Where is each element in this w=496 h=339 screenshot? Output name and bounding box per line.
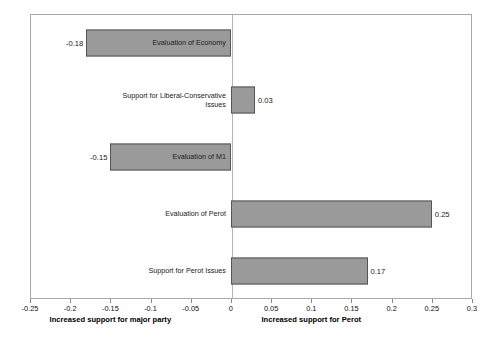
bar-category-label: Evaluation of M1 bbox=[172, 152, 226, 162]
x-tick-label: 0.25 bbox=[425, 304, 439, 313]
bar-value-label: -0.15 bbox=[90, 152, 107, 161]
x-tick-mark bbox=[392, 299, 393, 303]
bar-value-label: 0.03 bbox=[258, 95, 273, 104]
x-tick-mark bbox=[432, 299, 433, 303]
x-tick-mark bbox=[191, 299, 192, 303]
x-tick-mark bbox=[271, 299, 272, 303]
bar-category-label: Evaluation of Perot bbox=[165, 209, 226, 219]
bar-row: Support for Liberal-Conservative Issues0… bbox=[30, 71, 472, 128]
bar-row: Evaluation of Perot0.25 bbox=[30, 185, 472, 242]
x-tick-mark bbox=[311, 299, 312, 303]
axis-caption: Increased support for major party bbox=[50, 315, 172, 324]
bar[interactable] bbox=[231, 86, 255, 113]
x-tick-mark bbox=[351, 299, 352, 303]
x-tick-mark bbox=[30, 299, 31, 303]
bar-value-label: 0.17 bbox=[371, 266, 386, 275]
bar-value-label: -0.18 bbox=[66, 38, 83, 47]
x-tick-label: -0.05 bbox=[182, 304, 199, 313]
x-tick-label: 0.15 bbox=[344, 304, 358, 313]
x-tick-label: -0.2 bbox=[64, 304, 77, 313]
bar-row: Evaluation of M1-0.15 bbox=[30, 128, 472, 185]
x-tick-label: 0.3 bbox=[467, 304, 477, 313]
x-tick-label: -0.15 bbox=[102, 304, 119, 313]
bar[interactable] bbox=[231, 200, 432, 227]
bar-value-label: 0.25 bbox=[435, 209, 450, 218]
x-axis: -0.25-0.2-0.15-0.1-0.0500.050.10.150.20.… bbox=[30, 299, 472, 339]
x-tick-mark bbox=[151, 299, 152, 303]
x-tick-mark bbox=[110, 299, 111, 303]
bars-layer: Evaluation of Economy-0.18Support for Li… bbox=[30, 14, 472, 299]
x-tick-mark bbox=[472, 299, 473, 303]
x-tick-label: 0.05 bbox=[264, 304, 278, 313]
x-tick-label: 0.1 bbox=[306, 304, 316, 313]
x-tick-mark bbox=[231, 299, 232, 303]
x-tick-label: -0.1 bbox=[144, 304, 157, 313]
x-tick-label: 0.2 bbox=[386, 304, 396, 313]
x-tick-label: 0 bbox=[229, 304, 233, 313]
bar[interactable] bbox=[231, 257, 368, 284]
bar-category-label: Support for Perot Issues bbox=[148, 266, 226, 276]
bar-row: Evaluation of Economy-0.18 bbox=[30, 14, 472, 71]
bar-category-label: Support for Liberal-Conservative Issues bbox=[122, 90, 225, 109]
x-tick-label: -0.25 bbox=[22, 304, 39, 313]
bar-chart: Evaluation of Economy-0.18Support for Li… bbox=[0, 0, 496, 339]
bar-row: Support for Perot Issues0.17 bbox=[30, 242, 472, 299]
bar-category-label: Evaluation of Economy bbox=[152, 38, 226, 48]
x-tick-mark bbox=[70, 299, 71, 303]
axis-caption: Increased support for Perot bbox=[261, 315, 361, 324]
